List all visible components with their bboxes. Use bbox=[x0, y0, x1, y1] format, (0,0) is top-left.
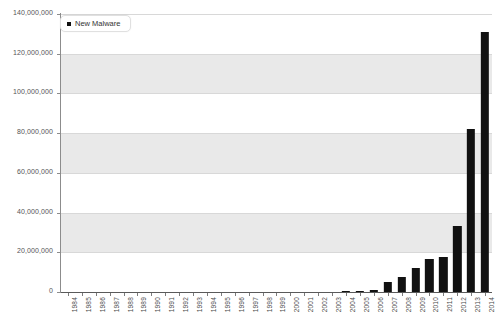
bar-slot bbox=[339, 14, 353, 292]
bar-slot bbox=[242, 14, 256, 292]
bar[interactable] bbox=[453, 226, 461, 292]
x-axis-tick-mark bbox=[68, 293, 69, 296]
x-axis-tick: 2012 bbox=[450, 293, 464, 324]
bar-slot bbox=[228, 14, 242, 292]
x-axis-tick: 1995 bbox=[214, 293, 228, 324]
x-axis-tick: 2006 bbox=[367, 293, 381, 324]
x-axis-tick-mark bbox=[318, 293, 319, 296]
y-axis-tick-label: 20,000,000 bbox=[17, 247, 53, 254]
bar-slot bbox=[353, 14, 367, 292]
x-axis-tick: 2014 bbox=[478, 293, 492, 324]
x-axis-tick-mark bbox=[374, 293, 375, 296]
bar-slot bbox=[381, 14, 395, 292]
bar-slot bbox=[158, 14, 172, 292]
x-axis-tick-mark bbox=[235, 293, 236, 296]
bar[interactable] bbox=[397, 277, 405, 292]
x-axis-tick-mark bbox=[96, 293, 97, 296]
bar-slot bbox=[200, 14, 214, 292]
x-axis-tick-mark bbox=[165, 293, 166, 296]
bar-slot bbox=[256, 14, 270, 292]
bar-slot bbox=[270, 14, 284, 292]
bar-slot bbox=[61, 14, 75, 292]
bar-slot bbox=[367, 14, 381, 292]
x-axis-tick-mark bbox=[263, 293, 264, 296]
bar[interactable] bbox=[481, 32, 489, 292]
bar-slot bbox=[75, 14, 89, 292]
bar-slot bbox=[311, 14, 325, 292]
bar-slot bbox=[450, 14, 464, 292]
x-axis-tick-mark bbox=[360, 293, 361, 296]
x-axis-tick: 2005 bbox=[353, 293, 367, 324]
bar-slot bbox=[186, 14, 200, 292]
bar[interactable] bbox=[425, 259, 433, 292]
bar-slot bbox=[409, 14, 423, 292]
x-axis-tick: 2010 bbox=[422, 293, 436, 324]
x-axis-tick: 1985 bbox=[75, 293, 89, 324]
bar-slot bbox=[172, 14, 186, 292]
x-axis-tick-mark bbox=[124, 293, 125, 296]
bar-slot bbox=[395, 14, 409, 292]
y-axis-tick-label: 60,000,000 bbox=[17, 168, 53, 175]
x-axis-tick: 1988 bbox=[117, 293, 131, 324]
x-axis-tick-mark bbox=[276, 293, 277, 296]
x-axis-tick: 1987 bbox=[103, 293, 117, 324]
bar-slot bbox=[325, 14, 339, 292]
y-axis-tick-label: 120,000,000 bbox=[13, 49, 53, 56]
bar[interactable] bbox=[411, 268, 419, 292]
x-axis-labels: 1984198519861987198819891990199119921993… bbox=[61, 293, 492, 324]
x-axis-tick-mark bbox=[207, 293, 208, 296]
x-axis-tick: 1996 bbox=[228, 293, 242, 324]
x-axis-tick: 1998 bbox=[256, 293, 270, 324]
bar-slot bbox=[89, 14, 103, 292]
bar-slot bbox=[103, 14, 117, 292]
x-axis-tick-mark bbox=[304, 293, 305, 296]
x-axis-tick: 2003 bbox=[325, 293, 339, 324]
x-axis-tick-mark bbox=[110, 293, 111, 296]
bar-slot bbox=[478, 14, 492, 292]
x-axis-tick: 1993 bbox=[186, 293, 200, 324]
square-marker-icon bbox=[67, 22, 71, 26]
x-axis-tick-mark bbox=[485, 293, 486, 296]
x-axis-tick-label: 2014 bbox=[488, 297, 495, 312]
bar-slot bbox=[297, 14, 311, 292]
legend-item-label: New Malware bbox=[75, 19, 120, 28]
x-axis-tick: 1990 bbox=[144, 293, 158, 324]
x-axis-tick-mark bbox=[332, 293, 333, 296]
x-axis-tick-mark bbox=[346, 293, 347, 296]
x-axis-tick: 1986 bbox=[89, 293, 103, 324]
x-axis-tick: 2007 bbox=[381, 293, 395, 324]
x-axis-tick-mark bbox=[179, 293, 180, 296]
bar[interactable] bbox=[439, 257, 447, 292]
x-axis-tick: 1994 bbox=[200, 293, 214, 324]
bar[interactable] bbox=[467, 129, 475, 292]
x-axis-tick: 2000 bbox=[283, 293, 297, 324]
x-axis-tick-mark bbox=[457, 293, 458, 296]
bar-slot bbox=[131, 14, 145, 292]
y-axis-tick-label: 140,000,000 bbox=[13, 9, 53, 16]
bar-slot bbox=[144, 14, 158, 292]
bar-slot bbox=[214, 14, 228, 292]
x-axis-tick-mark bbox=[471, 293, 472, 296]
y-axis-tick-label: 80,000,000 bbox=[17, 128, 53, 135]
bar-series-new-malware bbox=[61, 14, 492, 292]
x-axis-tick-mark bbox=[137, 293, 138, 296]
bar-slot bbox=[464, 14, 478, 292]
bar[interactable] bbox=[384, 282, 392, 292]
chart-legend: New Malware bbox=[60, 15, 131, 32]
x-axis-tick: 2004 bbox=[339, 293, 353, 324]
x-axis-tick: 2008 bbox=[395, 293, 409, 324]
bar-slot bbox=[117, 14, 131, 292]
bar[interactable] bbox=[342, 291, 350, 292]
x-axis-tick: 1997 bbox=[242, 293, 256, 324]
x-axis-tick-mark bbox=[443, 293, 444, 296]
x-axis-tick-mark bbox=[82, 293, 83, 296]
x-axis-tick-mark bbox=[402, 293, 403, 296]
bar-slot bbox=[422, 14, 436, 292]
x-axis-tick: 2001 bbox=[297, 293, 311, 324]
bar[interactable] bbox=[370, 290, 378, 292]
x-axis-tick: 1999 bbox=[270, 293, 284, 324]
x-axis-tick: 1984 bbox=[61, 293, 75, 324]
x-axis-tick-mark bbox=[388, 293, 389, 296]
x-axis-tick: 2009 bbox=[409, 293, 423, 324]
bar[interactable] bbox=[356, 291, 364, 292]
